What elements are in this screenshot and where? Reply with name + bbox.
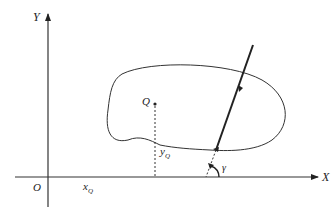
y-coord-subscript: Q — [165, 152, 170, 160]
intersection-marker-upper — [238, 85, 243, 92]
point-q-label: Q — [142, 95, 150, 107]
angle-arc — [211, 166, 219, 177]
origin-label: O — [33, 181, 41, 193]
angle-arrowhead — [208, 163, 214, 169]
x-coord-subscript: Q — [88, 187, 93, 195]
crossing-line — [216, 45, 253, 150]
y-axis-label: Y — [33, 10, 41, 24]
y-coord-label: yQ — [159, 145, 170, 160]
diagram-canvas: Y X O Q xQ yQ γ — [0, 0, 333, 213]
point-q — [153, 102, 156, 105]
x-axis-label: X — [321, 170, 330, 184]
region-outline — [107, 65, 285, 151]
x-coord-label: xQ — [82, 180, 93, 195]
angle-label: γ — [222, 162, 227, 173]
crossing-line-extension — [206, 150, 216, 177]
